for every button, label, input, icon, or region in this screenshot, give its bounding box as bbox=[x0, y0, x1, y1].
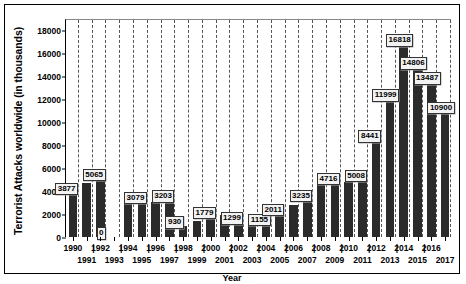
bar bbox=[317, 182, 326, 237]
x-axis-tick-mark bbox=[280, 237, 281, 241]
bar-value-label: 4716 bbox=[317, 173, 340, 186]
x-axis-tick-label: 2011 bbox=[353, 255, 371, 265]
bar bbox=[138, 202, 147, 237]
x-axis-tick-separator: | bbox=[258, 243, 260, 253]
gridline bbox=[174, 20, 175, 237]
bar bbox=[82, 183, 91, 237]
x-axis-tick-mark bbox=[293, 237, 294, 241]
bar-value-label: 3203 bbox=[152, 190, 175, 203]
bar bbox=[358, 180, 367, 237]
plot-area: 0200040006000800010000120001400016000180… bbox=[65, 19, 451, 237]
y-axis-tick-mark bbox=[62, 169, 66, 170]
bar bbox=[441, 112, 450, 237]
x-axis-tick-separator: | bbox=[368, 243, 370, 253]
gridline bbox=[422, 20, 423, 237]
x-axis-tick-label: 2017 bbox=[436, 255, 455, 265]
x-axis-tick-label: 2009 bbox=[325, 255, 344, 265]
bar-value-label: 14806 bbox=[400, 57, 427, 70]
bar bbox=[206, 217, 215, 237]
y-axis-tick-mark bbox=[62, 215, 66, 216]
bar-value-label: 3079 bbox=[124, 192, 147, 205]
gridline bbox=[312, 20, 313, 237]
y-axis-tick-mark bbox=[62, 238, 66, 239]
x-axis-tick-mark bbox=[390, 237, 391, 241]
x-axis-tick-mark bbox=[376, 237, 377, 241]
x-axis-tick-mark bbox=[307, 237, 308, 241]
y-axis-tick-mark bbox=[62, 31, 66, 32]
bar-value-label: 1779 bbox=[193, 207, 216, 220]
x-axis-tick-separator: | bbox=[423, 243, 425, 253]
gridline bbox=[298, 20, 299, 237]
x-axis-tick-label: 2007 bbox=[298, 255, 317, 265]
bar bbox=[386, 99, 395, 237]
x-axis-tick-mark bbox=[445, 237, 446, 241]
x-axis-tick-mark bbox=[183, 237, 184, 241]
x-axis-tick-mark bbox=[238, 237, 239, 241]
gridline bbox=[395, 20, 396, 237]
x-axis-tick-separator: | bbox=[396, 243, 398, 253]
x-axis-tick-separator: | bbox=[285, 243, 287, 253]
x-axis-tick-mark bbox=[128, 237, 129, 241]
gridline bbox=[285, 20, 286, 237]
x-axis-tick-mark bbox=[418, 237, 419, 241]
gridline bbox=[243, 20, 244, 237]
x-axis-tick-label: 1997 bbox=[160, 255, 179, 265]
gridline bbox=[161, 20, 162, 237]
y-axis-tick-mark bbox=[62, 146, 66, 147]
bar bbox=[275, 214, 284, 237]
x-axis-tick-mark bbox=[431, 237, 432, 241]
x-axis-tick-mark bbox=[349, 237, 350, 241]
gridline bbox=[381, 20, 382, 237]
y-axis-tick-mark bbox=[62, 77, 66, 78]
x-axis-tick-mark bbox=[169, 237, 170, 241]
x-axis-tick-mark bbox=[321, 237, 322, 241]
x-axis-tick-separator: | bbox=[341, 243, 343, 253]
bar bbox=[303, 200, 312, 237]
gridline bbox=[216, 20, 217, 237]
gridline bbox=[354, 20, 355, 237]
bar bbox=[331, 183, 340, 237]
x-axis-tick-mark bbox=[225, 237, 226, 241]
x-axis-tick-separator: | bbox=[203, 243, 205, 253]
x-axis-tick-separator: | bbox=[175, 243, 177, 253]
gridline bbox=[92, 20, 93, 237]
gridline bbox=[326, 20, 327, 237]
x-axis-tick-mark bbox=[197, 237, 198, 241]
gridline bbox=[229, 20, 230, 237]
x-axis-tick-separator: | bbox=[120, 243, 122, 253]
x-axis-tick-mark bbox=[404, 237, 405, 241]
bar-value-label: 5065 bbox=[83, 169, 106, 182]
bar-value-label: 3235 bbox=[290, 190, 313, 203]
bar bbox=[69, 193, 78, 237]
chart-screenshot: Terrorist Attacks worldwide (in thousand… bbox=[0, 0, 466, 284]
bar-value-label: 3877 bbox=[55, 183, 78, 196]
gridline bbox=[257, 20, 258, 237]
x-axis-tick-label: 2015 bbox=[408, 255, 427, 265]
x-axis-tick-mark bbox=[100, 237, 101, 241]
bar bbox=[413, 67, 422, 237]
gridline bbox=[367, 20, 368, 237]
bar bbox=[372, 140, 381, 237]
gridline bbox=[202, 20, 203, 237]
gridline bbox=[147, 20, 148, 237]
gridline bbox=[78, 20, 79, 237]
x-axis-tick-label: 1999 bbox=[187, 255, 206, 265]
x-axis-tick-mark bbox=[266, 237, 267, 241]
gridline bbox=[409, 20, 410, 237]
bar-value-label: 16818 bbox=[386, 34, 413, 47]
x-axis-tick-mark bbox=[362, 237, 363, 241]
x-axis-tick-label: 2005 bbox=[270, 255, 289, 265]
x-axis-tick-separator: | bbox=[313, 243, 315, 253]
x-axis-tick-separator: | bbox=[230, 243, 232, 253]
x-axis-tick-label: 1993 bbox=[105, 255, 124, 265]
bar-value-label: 8441 bbox=[358, 130, 381, 143]
x-axis-tick-label: 1990 bbox=[63, 243, 82, 253]
x-axis-tick-label: 2013 bbox=[380, 255, 399, 265]
x-axis-tick-separator: | bbox=[92, 243, 94, 253]
x-axis-tick-mark bbox=[87, 237, 88, 241]
x-axis-tick-mark bbox=[73, 237, 74, 241]
x-axis-tick-label: 1995 bbox=[132, 255, 151, 265]
bar-value-label: 930 bbox=[165, 216, 183, 229]
x-axis-tick-label: 2003 bbox=[243, 255, 262, 265]
x-axis-tick-mark bbox=[211, 237, 212, 241]
